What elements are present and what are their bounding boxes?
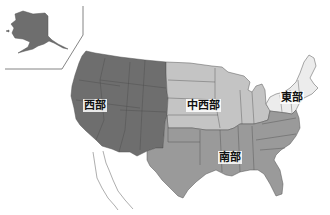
- region-midwest: [166, 62, 270, 130]
- us-regions-map: [0, 0, 330, 215]
- baja-california-outline: [93, 151, 133, 210]
- region-label-midwest: 中西部: [186, 99, 221, 112]
- region-label-west: 西部: [83, 99, 107, 112]
- region-label-east: 東部: [280, 91, 304, 104]
- region-alaska: [6, 11, 68, 53]
- region-east: [266, 55, 318, 114]
- region-label-south: 南部: [218, 151, 242, 164]
